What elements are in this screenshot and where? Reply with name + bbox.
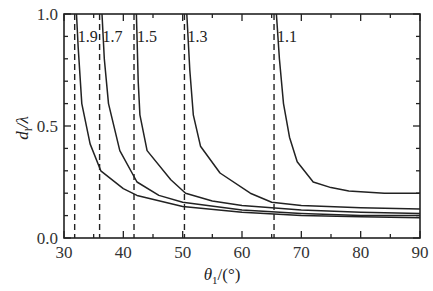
curve-label-1.9: 1.9 [78,28,98,45]
curves [77,14,421,218]
chart: 30405060708090 0.00.51.0 1.91.71.51.31.1… [0,0,433,291]
y-tick-labels: 0.00.51.0 [37,5,58,248]
curve-label-1.1: 1.1 [277,28,297,45]
curve-labels: 1.91.71.51.31.1 [78,28,297,45]
x-tick-label: 50 [174,243,191,262]
curve-label-1.7: 1.7 [103,28,123,45]
axis-ticks [64,14,420,238]
y-tick-label: 1.0 [37,5,58,24]
curve-n-1.1 [276,14,420,193]
curve-label-1.5: 1.5 [137,28,157,45]
y-tick-label: 0.5 [37,117,58,136]
curve-label-1.3: 1.3 [187,28,207,45]
x-tick-label: 40 [115,243,132,262]
x-tick-label: 90 [412,243,429,262]
y-axis-title: dl/λ [13,116,34,140]
x-tick-label: 60 [234,243,251,262]
curve-n-1.3 [187,14,420,209]
plot-frame [64,14,420,238]
y-tick-label: 0.0 [37,229,58,248]
x-tick-label: 30 [56,243,73,262]
x-tick-labels: 30405060708090 [56,243,429,262]
x-axis-title: θ1/(°) [204,265,241,286]
curve-n-1.9 [77,14,421,218]
plot-area [64,14,420,238]
x-tick-label: 70 [293,243,310,262]
x-tick-label: 80 [352,243,369,262]
